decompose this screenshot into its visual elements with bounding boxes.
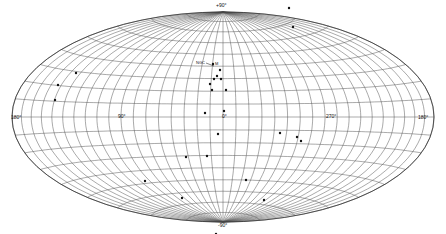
- label-right-edge: 180°: [418, 115, 428, 120]
- object-point: [75, 72, 77, 74]
- object-point: [263, 199, 265, 201]
- object-point: [288, 7, 290, 9]
- object-point: [57, 84, 59, 86]
- label-south-pole: -90°: [218, 223, 227, 228]
- object-point: [220, 78, 222, 80]
- label-cluster-a: NGC: [196, 60, 205, 65]
- label-cluster-b: M: [215, 61, 218, 66]
- object-point: [279, 132, 281, 134]
- object-point: [206, 155, 208, 157]
- object-point: [215, 233, 217, 234]
- label-lon-90: 90°: [118, 114, 126, 119]
- object-point: [185, 156, 187, 158]
- object-point: [212, 63, 214, 65]
- label-left-edge: 180°: [11, 115, 21, 120]
- object-point: [217, 133, 219, 135]
- object-point: [245, 179, 247, 181]
- object-point: [216, 75, 218, 77]
- object-point: [225, 89, 227, 91]
- object-point: [292, 26, 294, 28]
- object-point: [211, 89, 213, 91]
- object-point: [181, 197, 183, 199]
- object-point: [296, 136, 298, 138]
- object-point: [213, 78, 215, 80]
- object-point: [209, 83, 211, 85]
- object-point: [144, 180, 146, 182]
- object-point: [300, 140, 302, 142]
- label-north-pole: +90°: [216, 3, 226, 8]
- label-center: 0°: [222, 114, 227, 119]
- object-point: [54, 99, 56, 101]
- object-point: [223, 110, 225, 112]
- object-point: [204, 112, 206, 114]
- object-point: [219, 69, 221, 71]
- label-lon-270: 270°: [326, 114, 336, 119]
